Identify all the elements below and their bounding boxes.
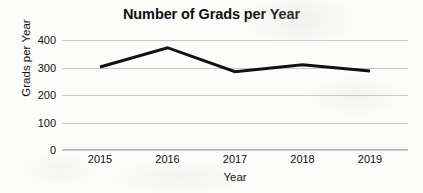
x-tick-label: 2019	[358, 153, 382, 165]
x-tick-label: 2018	[290, 153, 314, 165]
x-tick-label: 2016	[155, 153, 179, 165]
line-chart: Number of Grads per Year 0100200300400 2…	[0, 0, 423, 193]
x-axis-ticks: 20152016201720182019	[0, 153, 423, 169]
x-tick-label: 2015	[88, 153, 112, 165]
y-axis-label: Grads per Year	[20, 3, 32, 113]
gridline-0	[62, 150, 408, 151]
y-axis-ticks: 0100200300400	[0, 40, 423, 150]
x-axis-label: Year	[62, 171, 408, 183]
y-tick-label: 100	[24, 117, 56, 129]
x-tick-label: 2017	[223, 153, 247, 165]
chart-title: Number of Grads per Year	[0, 6, 423, 22]
